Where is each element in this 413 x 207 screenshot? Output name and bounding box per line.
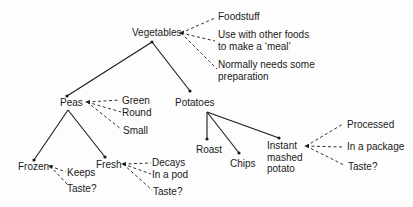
attr-link [181,33,215,41]
attr-link [306,146,343,147]
attr-use-with-other-foods: Use with other foods to make a ‘meal’ [218,29,309,53]
arrowhead-icon [121,162,126,166]
node-peas: Peas [60,97,83,109]
attr-normally-needs-preparation: Normally needs some preparation [218,59,315,83]
node-vegetables: Vegetables [132,27,182,39]
attr-link [181,33,217,69]
edge-vegetables-peas [67,42,152,96]
edge-peas-fresh [68,110,105,157]
node-fresh: Fresh [96,159,122,171]
attr-link [123,163,151,164]
attr-taste-frozen: Taste? [67,183,96,195]
node-dot [150,40,153,43]
attr-link [87,102,121,129]
attr-taste-fresh: Taste? [153,186,182,198]
edge-vegetables-potatoes [152,42,190,91]
attr-small: Small [123,125,148,137]
node-roast: Roast [196,144,222,156]
node-dot [237,151,240,154]
attr-processed: Processed [347,119,394,131]
arrowhead-icon [304,144,309,148]
attr-foodstuff: Foodstuff [218,11,260,23]
attr-taste-instant: Taste? [348,161,377,173]
attr-green: Green [122,95,150,107]
node-dot [205,137,208,140]
attr-in-a-pod: In a pod [152,169,188,181]
attr-link [306,146,344,165]
attr-link [123,164,151,174]
attr-link [50,166,66,172]
attr-link [306,124,343,146]
attr-decays: Decays [152,157,185,169]
arrowhead-icon [85,100,90,104]
node-instant-mashed-potato: Instant mashed potato [267,140,303,175]
node-frozen: Frozen [18,161,49,173]
concept-tree-diagram: Vegetables Foodstuff Use with other food… [0,0,413,207]
attr-link [87,102,121,112]
attr-round: Round [122,107,151,119]
attr-link [50,166,67,184]
attr-link [181,18,215,33]
node-dot [188,89,191,92]
node-potatoes: Potatoes [175,97,214,109]
attr-in-a-package: In a package [347,141,404,153]
attr-keeps: Keeps [67,167,95,179]
attr-link [87,100,120,102]
attr-link [123,164,152,190]
edge-peas-frozen [34,110,68,160]
node-chips: Chips [230,158,256,170]
